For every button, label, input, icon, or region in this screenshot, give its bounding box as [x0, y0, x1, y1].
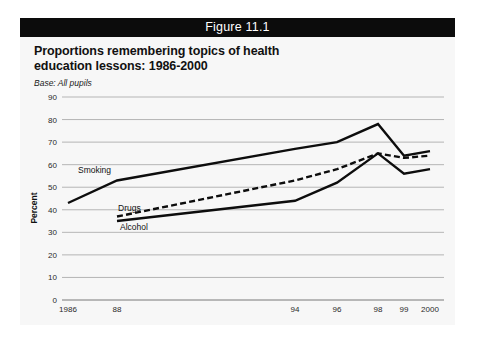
figure-panel: Figure 11.1 Proportions remembering topi…	[20, 18, 455, 325]
x-axis-tick-label: 94	[291, 305, 300, 314]
series-label-alcohol: Alcohol	[120, 222, 148, 232]
y-axis-tick-label: 60	[48, 161, 57, 170]
series-label-smoking: Smoking	[78, 165, 111, 175]
y-axis-tick-label: 50	[48, 183, 57, 192]
x-axis-tick-label: 96	[333, 305, 342, 314]
series-line-smoking	[68, 124, 430, 203]
x-axis-tick-label: 1986	[59, 305, 77, 314]
y-axis-tick-label: 10	[48, 273, 57, 282]
y-axis-tick-label: 70	[48, 138, 57, 147]
y-axis-tick-labels: 0102030405060708090	[48, 93, 57, 305]
x-axis-tick-label: 88	[113, 305, 122, 314]
x-axis-tick-label: 99	[400, 305, 409, 314]
y-axis-tick-label: 0	[53, 296, 58, 305]
plot-area: 0102030405060708090 198688949698992000 P…	[20, 18, 455, 325]
y-axis-tick-label: 30	[48, 228, 57, 237]
y-axis-title: Percent	[29, 192, 39, 223]
series-line-drugs	[117, 153, 430, 216]
y-axis-tick-label: 80	[48, 116, 57, 125]
gridlines	[62, 97, 444, 300]
y-axis-tick-label: 90	[48, 93, 57, 102]
y-axis-tick-label: 20	[48, 251, 57, 260]
x-axis-tick-label: 98	[374, 305, 383, 314]
line-chart-svg: 0102030405060708090 198688949698992000 P…	[20, 18, 455, 325]
x-axis-tick-label: 2000	[421, 305, 439, 314]
y-axis-tick-label: 40	[48, 206, 57, 215]
x-axis-tick-labels: 198688949698992000	[59, 305, 439, 314]
series-label-drugs: Drugs	[118, 203, 141, 213]
